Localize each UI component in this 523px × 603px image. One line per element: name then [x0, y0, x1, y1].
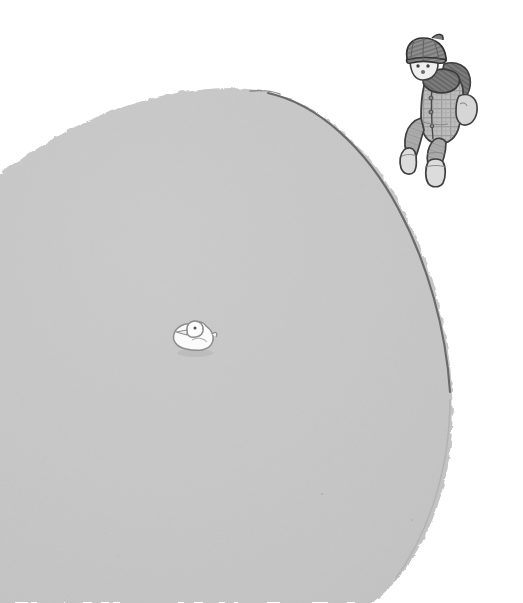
illustration-svg [0, 0, 523, 603]
boot-front [426, 159, 446, 187]
boot-rear [400, 148, 416, 174]
paper-speck [117, 555, 119, 557]
jacket-button [429, 96, 433, 100]
jacket-button [429, 110, 433, 114]
paper-speck [411, 519, 413, 521]
nose [421, 70, 425, 74]
eye-left [416, 64, 419, 67]
paper-speck [321, 493, 323, 495]
illustration-canvas: A large pale grey snow mound fills most … [0, 0, 523, 603]
duck-eye [194, 327, 197, 330]
eye-right [426, 64, 429, 67]
mitten [456, 95, 477, 126]
